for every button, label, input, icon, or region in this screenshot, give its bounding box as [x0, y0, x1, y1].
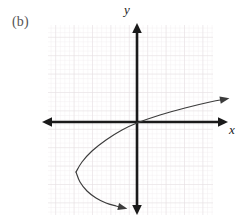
parabola-upper-arrow-icon — [219, 97, 229, 104]
figure-panel: (b) y x — [0, 0, 244, 223]
x-axis-arrow-left-icon — [42, 117, 52, 127]
grid-layer — [48, 25, 213, 215]
x-axis-label: x — [229, 122, 235, 138]
grid-major-lines — [48, 25, 213, 215]
y-axis-label: y — [124, 2, 130, 18]
coordinate-plane-graphic — [0, 0, 244, 223]
x-axis-arrow-right-icon — [218, 117, 228, 127]
